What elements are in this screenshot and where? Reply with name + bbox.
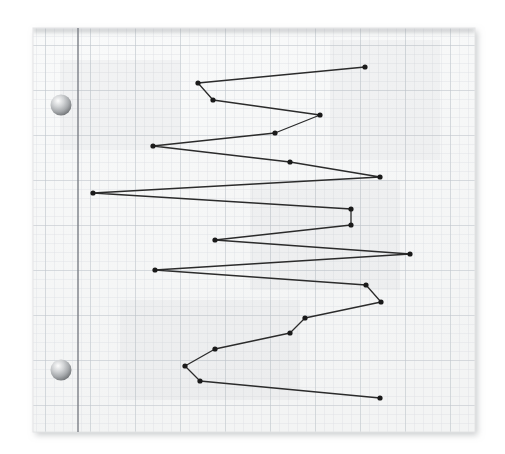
data-point: [378, 299, 383, 304]
data-point: [348, 222, 353, 227]
data-point: [348, 206, 353, 211]
data-point: [150, 143, 155, 148]
screenshot-root: [0, 0, 505, 454]
data-point: [152, 267, 157, 272]
data-point: [90, 190, 95, 195]
data-point: [317, 112, 322, 117]
paper-container: [0, 0, 505, 454]
grid-layer: [33, 28, 475, 432]
hole-punch-bottom: [51, 360, 72, 381]
data-point: [287, 330, 292, 335]
data-point: [377, 174, 382, 179]
data-point: [195, 80, 200, 85]
hole-punch-top: [51, 95, 72, 116]
data-point: [302, 315, 307, 320]
data-point: [362, 64, 367, 69]
data-point: [197, 378, 202, 383]
graph-paper-canvas: [0, 0, 505, 454]
data-point: [182, 363, 187, 368]
data-point: [363, 282, 368, 287]
data-point: [377, 395, 382, 400]
data-point: [287, 159, 292, 164]
paper-top-shade: [33, 28, 475, 32]
data-point: [407, 251, 412, 256]
data-point: [212, 346, 217, 351]
data-point: [272, 130, 277, 135]
data-point: [210, 97, 215, 102]
data-point: [212, 237, 217, 242]
